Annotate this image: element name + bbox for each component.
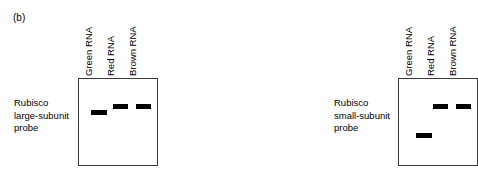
lane-headers-small-subunit: Green RNA Red RNA Brown RNA	[398, 0, 478, 78]
gel-box-large-subunit	[78, 78, 158, 166]
probe-label-small-subunit: Rubisco small-subunit probe	[334, 97, 390, 135]
probe-label-line: Rubisco	[334, 97, 390, 110]
probe-label-line: Rubisco	[14, 97, 69, 110]
band-brown-rna	[456, 104, 471, 109]
gel-box-small-subunit	[398, 78, 478, 166]
lane-label-red-rna: Red RNA	[106, 36, 116, 76]
lane-label-brown-rna: Brown RNA	[128, 26, 138, 76]
band-green-rna	[91, 110, 107, 115]
band-red-rna	[433, 104, 448, 109]
probe-label-line: small-subunit	[334, 110, 390, 123]
band-green-rna	[416, 133, 432, 138]
lane-label-green-rna: Green RNA	[84, 27, 94, 76]
probe-label-line: large-subunit	[14, 110, 69, 123]
band-red-rna	[113, 104, 128, 109]
probe-label-large-subunit: Rubisco large-subunit probe	[14, 97, 69, 135]
lane-label-green-rna: Green RNA	[404, 27, 414, 76]
lane-label-brown-rna: Brown RNA	[448, 26, 458, 76]
probe-label-line: probe	[334, 122, 390, 135]
probe-label-line: probe	[14, 122, 69, 135]
lane-headers-large-subunit: Green RNA Red RNA Brown RNA	[78, 0, 158, 78]
blot-panel-large-subunit: Rubisco large-subunit probe Green RNA Re…	[0, 0, 169, 181]
blot-panel-small-subunit: Rubisco small-subunit probe Green RNA Re…	[160, 0, 339, 181]
band-brown-rna	[136, 104, 151, 109]
lane-label-red-rna: Red RNA	[426, 36, 436, 76]
